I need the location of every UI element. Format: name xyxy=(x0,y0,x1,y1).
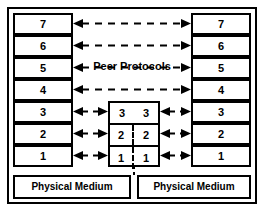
relay-row-3-right-label: 3 xyxy=(143,107,149,119)
left-layer-4: 4 xyxy=(13,79,73,101)
right-layer-4-label: 4 xyxy=(218,85,224,96)
right-layer-4: 4 xyxy=(191,79,251,101)
peer-arrow-layer-4 xyxy=(73,84,191,95)
right-layer-5-label: 5 xyxy=(218,63,224,74)
left-relay-arrow-layer-1 xyxy=(73,150,108,161)
relay-row-2-right-label: 2 xyxy=(143,129,149,141)
relay-divider-extension xyxy=(132,165,136,177)
right-layer-7: 7 xyxy=(191,13,251,35)
left-layer-1-label: 1 xyxy=(40,151,46,162)
right-layer-2-label: 2 xyxy=(218,129,224,140)
relay-node: 3 3 2 2 1 1 xyxy=(108,101,160,167)
right-layer-1-label: 1 xyxy=(218,151,224,162)
protocol-stack-diagram: 7 6 5 4 3 2 1 Physical Medium 7 6 5 4 3 … xyxy=(0,0,269,214)
relay-row-3-left-label: 3 xyxy=(119,107,125,119)
right-layer-6: 6 xyxy=(191,35,251,57)
peer-arrow-layer-5 xyxy=(73,62,191,73)
right-layer-2: 2 xyxy=(191,123,251,145)
relay-row-2-left: 2 xyxy=(110,125,134,145)
right-layer-3-label: 3 xyxy=(218,107,224,118)
relay-row-2: 2 2 xyxy=(110,125,158,147)
peer-arrow-layer-6 xyxy=(73,40,191,51)
right-relay-arrow-layer-1 xyxy=(160,150,191,161)
relay-row-3-left: 3 xyxy=(110,103,134,123)
left-layer-7-label: 7 xyxy=(40,19,46,30)
left-layer-3-label: 3 xyxy=(40,107,46,118)
relay-row-1-left-label: 1 xyxy=(118,152,124,164)
left-layer-6: 6 xyxy=(13,35,73,57)
left-layer-2-label: 2 xyxy=(40,129,46,140)
right-layer-7-label: 7 xyxy=(218,19,224,30)
left-relay-arrow-layer-2 xyxy=(73,128,108,139)
left-layer-5: 5 xyxy=(13,57,73,79)
left-layer-5-label: 5 xyxy=(40,63,46,74)
relay-row-3: 3 3 xyxy=(110,103,158,125)
relay-row-2-left-label: 2 xyxy=(118,129,124,141)
right-physical-medium-label: Physical Medium xyxy=(153,182,234,192)
right-layer-5: 5 xyxy=(191,57,251,79)
left-layer-6-label: 6 xyxy=(40,41,46,52)
left-layer-3: 3 xyxy=(13,101,73,123)
relay-row-3-right: 3 xyxy=(134,103,158,123)
left-layer-7: 7 xyxy=(13,13,73,35)
left-layer-1: 1 xyxy=(13,145,73,167)
right-relay-arrow-layer-2 xyxy=(160,128,191,139)
right-relay-arrow-layer-3 xyxy=(160,106,191,117)
left-relay-arrow-layer-3 xyxy=(73,106,108,117)
right-physical-medium: Physical Medium xyxy=(137,175,251,199)
relay-row-1-right-label: 1 xyxy=(143,152,149,164)
left-layer-2: 2 xyxy=(13,123,73,145)
left-physical-medium-label: Physical Medium xyxy=(31,182,112,192)
right-layer-3: 3 xyxy=(191,101,251,123)
right-layer-1: 1 xyxy=(191,145,251,167)
left-physical-medium: Physical Medium xyxy=(13,175,131,199)
relay-row-1-left: 1 xyxy=(110,147,134,169)
relay-row-1-right: 1 xyxy=(134,147,158,169)
right-layer-6-label: 6 xyxy=(218,41,224,52)
relay-row-2-right: 2 xyxy=(134,125,158,145)
left-layer-4-label: 4 xyxy=(40,85,46,96)
peer-arrow-layer-7 xyxy=(73,18,191,29)
